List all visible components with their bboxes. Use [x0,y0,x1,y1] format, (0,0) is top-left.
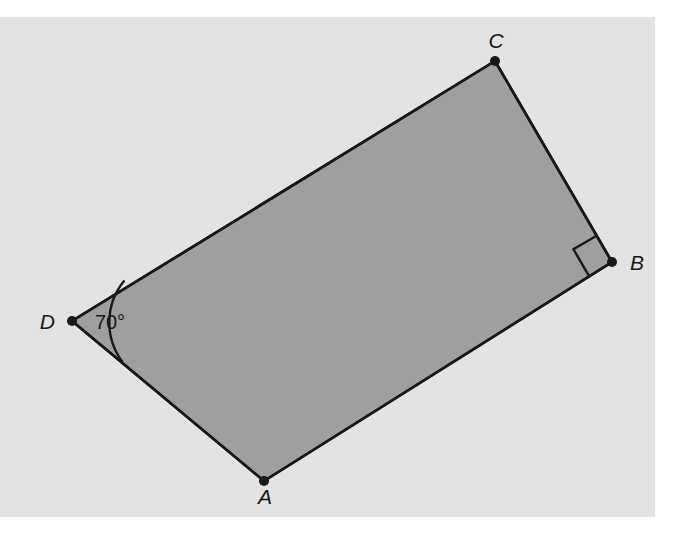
vertex-label-d: D [40,310,55,333]
vertex-dot-d [67,316,77,326]
angle-label-d: 70° [95,311,125,333]
vertex-dot-b [607,257,617,267]
figure-canvas: A B C D 70° [0,0,688,542]
vertex-label-a: A [256,485,272,508]
geometry-figure: A B C D 70° [0,0,688,542]
vertex-label-b: B [630,251,644,274]
vertex-label-c: C [488,29,504,52]
vertex-dot-c [490,56,500,66]
